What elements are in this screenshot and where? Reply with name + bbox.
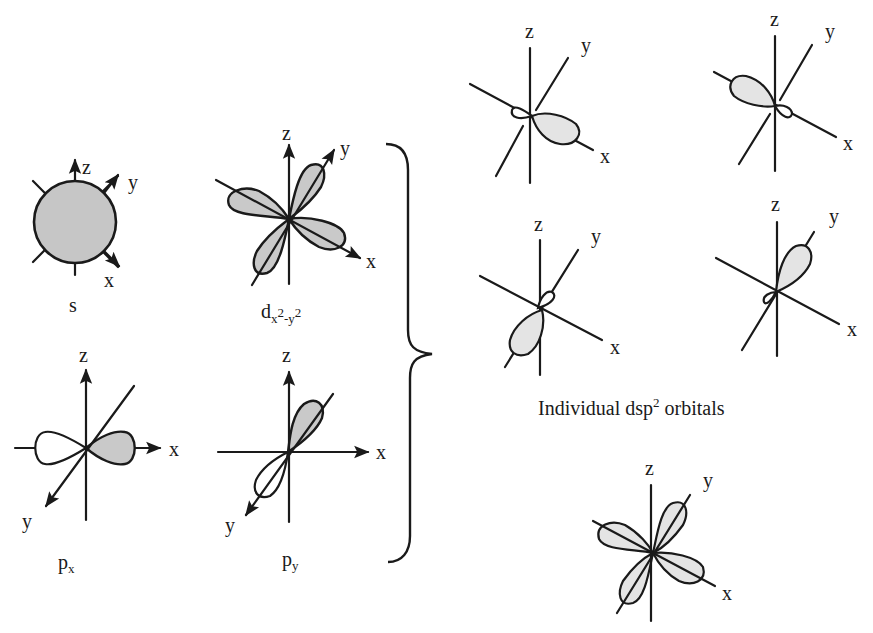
hybrid-orbital-3: z y x bbox=[480, 213, 620, 375]
hybrid-orbital-4: z y x bbox=[716, 193, 857, 356]
major-lobe bbox=[532, 114, 579, 145]
major-lobe bbox=[776, 245, 811, 292]
s-orbital: z y x s bbox=[33, 156, 138, 316]
y-label: y bbox=[22, 510, 32, 533]
z-label: z bbox=[282, 122, 291, 144]
y-axis-lower bbox=[739, 114, 770, 164]
x-label: x bbox=[600, 145, 610, 167]
lobe-neg-x bbox=[35, 432, 86, 465]
y-axis bbox=[252, 150, 334, 285]
y-axis-arrow bbox=[104, 175, 118, 193]
major-lobe bbox=[730, 76, 775, 107]
y-label: y bbox=[340, 137, 350, 160]
lobe-neg-y bbox=[254, 219, 289, 274]
z-label: z bbox=[645, 457, 654, 479]
dx2-y2-orbital: z y x dx2-y2 bbox=[216, 122, 376, 326]
x-label: x bbox=[366, 250, 376, 272]
x-label: x bbox=[104, 269, 114, 291]
x-axis-arrow bbox=[104, 251, 119, 266]
y-label: y bbox=[825, 20, 835, 43]
py-orbital: z x y py bbox=[218, 344, 386, 573]
grouping-brace bbox=[386, 144, 432, 562]
z-label: z bbox=[771, 193, 780, 215]
lobe-pos-y bbox=[289, 164, 324, 219]
z-label: z bbox=[534, 213, 543, 235]
z-label: z bbox=[82, 156, 91, 178]
y-label: y bbox=[703, 469, 713, 492]
z-label: z bbox=[525, 20, 534, 42]
z-label: z bbox=[79, 344, 88, 366]
y-label: y bbox=[128, 171, 138, 194]
py-caption: py bbox=[282, 548, 299, 573]
x-label: x bbox=[610, 336, 620, 358]
y-label: y bbox=[581, 34, 591, 57]
x-label: x bbox=[376, 441, 386, 463]
y-axis-upper bbox=[780, 45, 812, 100]
x-label: x bbox=[722, 582, 732, 604]
y-label: y bbox=[829, 205, 839, 228]
lobe-neg-y bbox=[255, 452, 288, 497]
px-orbital: z x y px bbox=[15, 344, 179, 576]
combined-dsp2-orbitals: z y x bbox=[593, 457, 732, 621]
lobe-pos-y bbox=[288, 401, 323, 452]
y-axis-upper bbox=[536, 58, 568, 110]
lobe-pos-x bbox=[86, 432, 135, 465]
minor-lobe bbox=[775, 105, 792, 117]
z-label: z bbox=[770, 8, 779, 30]
dsp2-hybridization-diagram: z y x s z y x dx2-y2 z x y px bbox=[0, 0, 873, 633]
x-label: x bbox=[847, 318, 857, 340]
lobe-neg-y bbox=[620, 553, 653, 604]
y-label: y bbox=[225, 514, 235, 537]
hybrid-orbital-1: z y x bbox=[470, 20, 610, 183]
y-label: y bbox=[591, 225, 601, 248]
major-lobe bbox=[510, 310, 544, 355]
x-label: x bbox=[169, 438, 179, 460]
dx2-y2-caption: dx2-y2 bbox=[261, 300, 301, 326]
px-caption: px bbox=[58, 551, 75, 576]
z-label: z bbox=[282, 344, 291, 366]
y-axis-lower bbox=[496, 126, 523, 176]
s-caption: s bbox=[69, 294, 77, 316]
x-label: x bbox=[843, 132, 853, 154]
hybrid-caption: Individual dsp2 orbitals bbox=[538, 395, 725, 420]
hybrid-orbital-2: z y x bbox=[714, 8, 853, 171]
